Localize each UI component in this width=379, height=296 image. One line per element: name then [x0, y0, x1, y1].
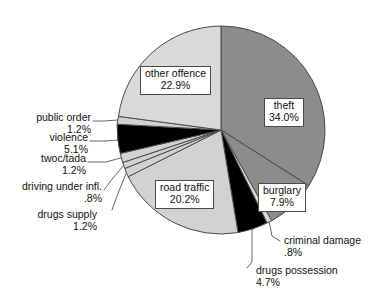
leader-line-twoc-tada: [88, 158, 121, 162]
pie-label-theft: theft 34.0%: [264, 98, 304, 127]
leader-line-drugs-possession: [247, 229, 252, 269]
pie-label-road-traffic: road traffic 20.2%: [155, 180, 214, 209]
pie-label-driving-under-infl: driving under infl. .8%: [22, 181, 102, 205]
pie-label-criminal-damage: criminal damage .8%: [284, 235, 361, 259]
pie-chart: other offence 22.9% theft 34.0% road tra…: [0, 0, 379, 296]
pie-label-other-offence: other offence 22.9%: [140, 66, 211, 95]
pie-label-burglary: burglary 7.9%: [258, 183, 306, 212]
pie-label-twoc-tada-value: 1.2%: [41, 165, 86, 177]
leader-line-public-order: [93, 120, 118, 121]
pie-label-criminal-damage-value: .8%: [284, 247, 361, 259]
pie-label-drugs-possession-value: 4.7%: [256, 277, 338, 289]
pie-label-twoc-tada: twoc/tada 1.2%: [41, 153, 86, 177]
pie-label-theft-value: 34.0%: [269, 112, 299, 124]
pie-label-other-offence-value: 22.9%: [145, 80, 206, 92]
pie-label-drugs-supply: drugs supply 1.2%: [37, 209, 97, 233]
pie-label-theft-name: theft: [269, 100, 299, 112]
pie-label-burglary-value: 7.9%: [263, 197, 301, 209]
leader-line-criminal-damage: [269, 222, 280, 241]
pie-label-drugs-supply-value: 1.2%: [37, 221, 97, 233]
leader-line-drugs-supply: [112, 173, 126, 211]
pie-label-road-traffic-name: road traffic: [160, 182, 209, 194]
pie-label-road-traffic-value: 20.2%: [160, 194, 209, 206]
pie-label-drugs-possession: drugs possession 4.7%: [256, 265, 338, 289]
pie-label-other-offence-name: other offence: [145, 68, 206, 80]
pie-label-burglary-name: burglary: [263, 185, 301, 197]
pie-label-driving-under-infl-value: .8%: [22, 193, 102, 205]
leader-line-violence: [90, 140, 119, 141]
